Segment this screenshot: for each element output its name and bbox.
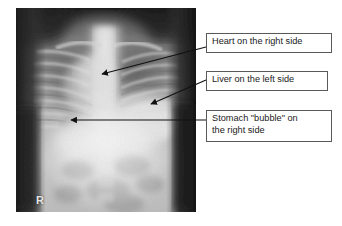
callout-heart: Heart on the right side (206, 33, 332, 53)
xray-canvas (16, 8, 196, 212)
callout-stomach: Stomach "bubble" on the right side (206, 110, 332, 142)
callout-liver: Liver on the left side (206, 71, 328, 91)
xray-image: R (16, 8, 196, 212)
film-right-marker: R (36, 195, 44, 206)
annotated-xray-figure: R Heart on the right side Liver on the l… (0, 0, 342, 226)
